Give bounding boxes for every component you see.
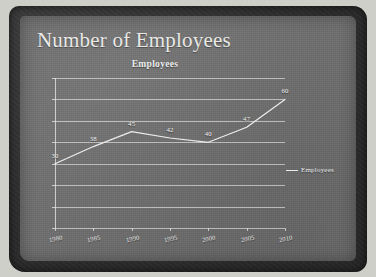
employees-line-chart: Employees 010203040506070 19801985199019…: [20, 56, 356, 261]
series-line-employees: [55, 78, 285, 228]
x-tick: [93, 228, 94, 231]
data-label: 47: [235, 115, 259, 122]
x-tick: [208, 228, 209, 231]
data-label: 38: [81, 135, 105, 142]
plot-area: 010203040506070 198019851990199520002005…: [55, 78, 285, 228]
legend-item-label: Employees: [301, 166, 334, 174]
x-tick: [285, 228, 286, 231]
x-tick: [55, 228, 56, 231]
data-label: 60: [273, 87, 297, 94]
x-tick: [132, 228, 133, 231]
photo-frame: Number of Employees Employees 0102030405…: [0, 0, 376, 277]
presentation-slide: Number of Employees Employees 0102030405…: [20, 16, 356, 261]
data-label: 42: [158, 126, 182, 133]
data-label: 40: [196, 130, 220, 137]
x-tick-label: 1995: [154, 232, 187, 246]
x-tick-label: 1980: [39, 232, 72, 246]
chart-legend: Employees: [286, 166, 334, 174]
x-tick-label: 2000: [193, 232, 226, 246]
x-tick: [247, 228, 248, 231]
page-title: Number of Employees: [37, 28, 231, 52]
x-tick-label: 1985: [78, 232, 111, 246]
x-tick-label: 2005: [231, 232, 264, 246]
data-label: 30: [43, 152, 67, 159]
x-tick-label: 1990: [116, 232, 149, 246]
x-tick: [170, 228, 171, 231]
x-tick-label: 2010: [269, 232, 302, 246]
data-label: 45: [120, 120, 144, 127]
legend-line-marker-icon: [286, 170, 298, 171]
chart-title: Employees: [20, 59, 290, 69]
